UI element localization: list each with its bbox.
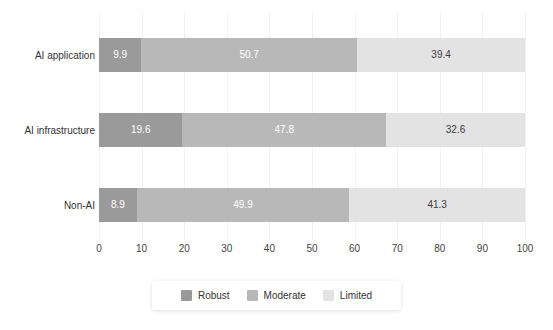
category-axis: AI application AI infrastructure Non-AI xyxy=(0,12,95,240)
legend-item-limited[interactable]: Limited xyxy=(323,290,372,301)
legend-item-robust[interactable]: Robust xyxy=(181,290,230,301)
bar-segment-limited[interactable]: 32.6 xyxy=(386,113,525,147)
table-row: 9.9 50.7 39.4 xyxy=(99,38,525,72)
table-row: 19.6 47.8 32.6 xyxy=(99,113,525,147)
legend-item-label: Moderate xyxy=(264,290,306,301)
category-label-non-ai: Non-AI xyxy=(0,188,95,222)
category-label-ai-infrastructure: AI infrastructure xyxy=(0,113,95,147)
x-tick-label: 40 xyxy=(264,243,275,254)
legend-swatch-icon xyxy=(323,290,334,301)
bar-segment-moderate[interactable]: 50.7 xyxy=(141,38,357,72)
table-row: 8.9 49.9 41.3 xyxy=(99,188,525,222)
bar-segment-robust[interactable]: 9.9 xyxy=(99,38,141,72)
x-tick-label: 50 xyxy=(306,243,317,254)
legend-item-label: Limited xyxy=(340,290,372,301)
stacked-bar-chart: AI application AI infrastructure Non-AI … xyxy=(0,0,553,330)
x-tick-label: 60 xyxy=(349,243,360,254)
legend-item-label: Robust xyxy=(198,290,230,301)
bar-segment-limited[interactable]: 39.4 xyxy=(357,38,525,72)
x-tick-label: 70 xyxy=(392,243,403,254)
plot-area: 9.9 50.7 39.4 19.6 47.8 32.6 8.9 49.9 41… xyxy=(99,12,525,240)
x-tick-label: 10 xyxy=(136,243,147,254)
x-tick-label: 80 xyxy=(434,243,445,254)
bar-segment-robust[interactable]: 19.6 xyxy=(99,113,182,147)
x-tick-label: 0 xyxy=(96,243,102,254)
x-tick-label: 90 xyxy=(477,243,488,254)
bar-segment-moderate[interactable]: 49.9 xyxy=(137,188,349,222)
x-tick-label: 100 xyxy=(517,243,534,254)
x-axis: 0 10 20 30 40 50 60 70 80 90 100 xyxy=(99,243,525,261)
x-tick-label: 20 xyxy=(179,243,190,254)
x-tick-label: 30 xyxy=(221,243,232,254)
bar-segment-robust[interactable]: 8.9 xyxy=(99,188,137,222)
category-label-ai-application: AI application xyxy=(0,38,95,72)
bar-segment-moderate[interactable]: 47.8 xyxy=(182,113,386,147)
legend-item-moderate[interactable]: Moderate xyxy=(247,290,306,301)
bar-segment-limited[interactable]: 41.3 xyxy=(349,188,525,222)
legend: Robust Moderate Limited xyxy=(152,281,401,310)
legend-swatch-icon xyxy=(181,290,192,301)
gridline-100 xyxy=(525,12,526,240)
bar-rows: 9.9 50.7 39.4 19.6 47.8 32.6 8.9 49.9 41… xyxy=(99,12,525,240)
legend-swatch-icon xyxy=(247,290,258,301)
